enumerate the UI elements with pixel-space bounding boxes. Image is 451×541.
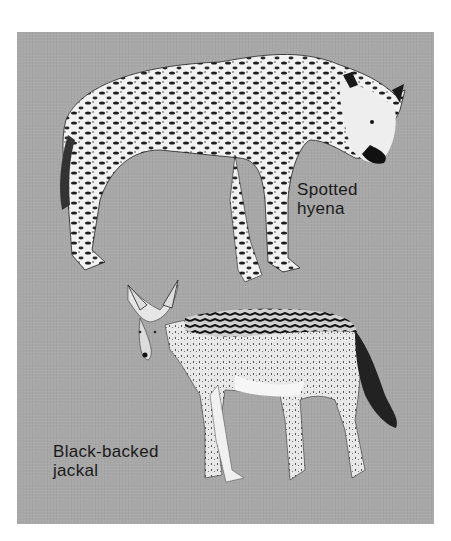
- spotted-hyena-drawing: [60, 54, 405, 282]
- black-backed-jackal-drawing: [128, 280, 397, 482]
- jackal-label-line-2: jackal: [53, 461, 159, 480]
- jackal-label-line-1: Black-backed: [53, 442, 159, 461]
- hyena-label-line-2: hyena: [297, 199, 358, 218]
- hyena-label: Spotted hyena: [297, 180, 358, 218]
- hyena-label-line-1: Spotted: [297, 180, 358, 199]
- jackal-label: Black-backed jackal: [53, 442, 159, 480]
